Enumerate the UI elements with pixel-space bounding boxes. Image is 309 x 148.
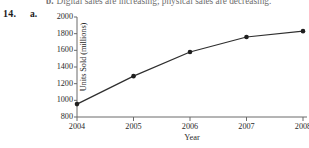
data-line-series [77, 31, 303, 104]
data-point-markers [75, 29, 306, 107]
x-axis-tick-label: 2006 [174, 122, 206, 131]
x-axis-tick-label: 2008 [287, 122, 309, 131]
chart-axes [77, 17, 307, 117]
y-axis-tick-label: 1400 [43, 62, 73, 71]
y-axis-tick-label: 1800 [43, 29, 73, 38]
y-axis-tick-label: 1200 [43, 79, 73, 88]
y-axis-tick-label: 1600 [43, 45, 73, 54]
data-point [244, 35, 249, 40]
y-axis-tick-label: 1000 [43, 95, 73, 104]
x-axis-title: Year [77, 133, 307, 142]
x-axis-tick-label: 2005 [118, 122, 150, 131]
chart-tick-marks [74, 17, 303, 121]
worksheet-page: b.Digital sales are increasing; physical… [0, 0, 309, 148]
y-axis-tick-label: 800 [43, 112, 73, 121]
chart-canvas [0, 0, 309, 148]
data-point [188, 50, 193, 55]
data-point [301, 29, 306, 34]
x-axis-tick-label: 2004 [61, 122, 93, 131]
line-chart: Units Sold (millions) Year 8001000120014… [0, 0, 309, 148]
y-axis-title: Units Sold (millions) [79, 9, 93, 105]
data-point [131, 74, 136, 79]
y-axis-tick-label: 2000 [43, 12, 73, 21]
x-axis-tick-label: 2007 [231, 122, 263, 131]
